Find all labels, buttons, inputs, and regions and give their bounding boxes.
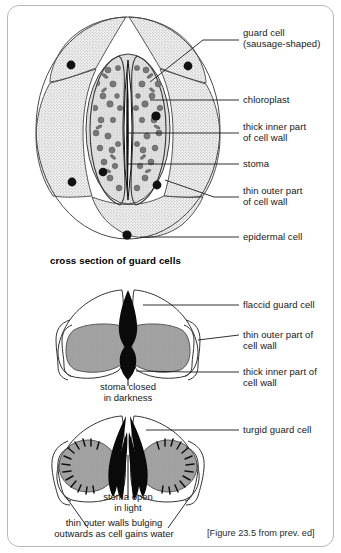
label-guard-cell: guard cell (sausage-shaped) (243, 27, 320, 49)
leader-thin-outer-wall-closed (198, 335, 239, 340)
guard-cell-nucleus-left (99, 168, 108, 177)
nucleus-right (153, 181, 162, 190)
flaccid-cytoplasm-right (132, 324, 190, 372)
guard-cell-nucleus-right (151, 111, 160, 120)
top-surface-view (36, 17, 239, 240)
epidermal-cell-bottom (92, 196, 203, 238)
caption-stoma-closed: stoma closed in darkness (63, 381, 193, 404)
label-thin-outer-part-of-cell-wall-closed: thin outer part of cell wall (243, 329, 313, 351)
label-stoma: stoma (243, 158, 269, 169)
label-thick-inner-part-of-cell-wall: thick inner part of cell wall (243, 121, 306, 143)
caption-stoma-open: stoma open in light (63, 491, 193, 514)
label-turgid-guard-cell: turgid guard cell (243, 424, 311, 435)
nucleus-bottom (122, 230, 131, 239)
label-chloroplast: chloroplast (243, 94, 290, 105)
figure-panel: guard cell (sausage-shaped) chloroplast … (0, 0, 341, 553)
label-thick-inner-part-of-cell-wall-closed: thick inner part of cell wall (243, 366, 317, 388)
figure-citation: [Figure 23.5 from prev. ed] (207, 528, 315, 538)
nucleus-top-right (184, 62, 193, 71)
label-thin-outer-part-of-cell-wall: thin outer part of cell wall (243, 185, 302, 207)
nucleus-left (68, 178, 77, 187)
caption-thin-outer-walls-bulging: thin outer walls bulging outwards as cel… (28, 517, 200, 540)
stomata-diagram (0, 0, 341, 553)
closed-stoma-view (56, 290, 239, 386)
label-flaccid-guard-cell: flaccid guard cell (243, 299, 315, 310)
label-epidermal-cell: epidermal cell (243, 231, 302, 242)
flaccid-cytoplasm-left (66, 324, 124, 372)
section-caption: cross section of guard cells (50, 255, 181, 266)
nucleus-top-left (67, 61, 76, 70)
